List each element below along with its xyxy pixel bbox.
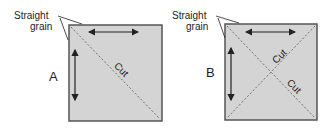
pointer-line: [218, 18, 225, 38]
panel-label-a: A: [49, 69, 58, 84]
panel-b: Cut Cut B Straight grain: [172, 10, 317, 120]
panel-a: Cut A Straight grain: [14, 10, 162, 121]
annotation-line2: grain: [30, 21, 52, 32]
diagram: Cut A Straight grain Cut Cut B Straight …: [0, 0, 327, 134]
annotation-line1: Straight: [14, 10, 49, 21]
annotation-line1: Straight: [172, 10, 207, 21]
annotation-line2: grain: [186, 21, 208, 32]
pointer-line: [60, 18, 68, 40]
panel-label-b: B: [206, 65, 215, 80]
